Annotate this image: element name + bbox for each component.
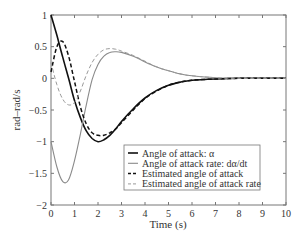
- legend: Angle of attack: αAngle of attack rate: …: [124, 145, 261, 190]
- x-axis-label: Time (s): [149, 218, 187, 231]
- line-chart: 01234567891010.50−0.5−1−1.5−2 Time (s) r…: [0, 0, 306, 240]
- series-line: [51, 41, 286, 136]
- x-tick-label: 0: [49, 208, 54, 219]
- x-tick-label: 9: [260, 208, 265, 219]
- y-axis-label: rad–rad/s: [10, 90, 22, 131]
- y-tick-label: −0.5: [29, 105, 47, 116]
- x-tick-label: 2: [96, 208, 101, 219]
- x-tick-label: 7: [213, 208, 218, 219]
- x-tick-label: 1: [72, 208, 77, 219]
- x-tick-label: 8: [237, 208, 242, 219]
- y-tick-label: 0: [42, 73, 47, 84]
- x-tick-label: 4: [143, 208, 148, 219]
- y-tick-label: 1: [42, 10, 47, 21]
- x-tick-label: 6: [190, 208, 195, 219]
- legend-entry: Estimated angle of attack rate: [142, 178, 261, 189]
- x-tick-label: 10: [281, 208, 291, 219]
- y-tick-label: 0.5: [35, 41, 48, 52]
- series-line: [51, 49, 286, 106]
- x-tick-label: 3: [119, 208, 124, 219]
- y-tick-label: −1.5: [29, 168, 47, 179]
- y-tick-label: −1: [36, 136, 47, 147]
- y-tick-label: −2: [36, 200, 47, 211]
